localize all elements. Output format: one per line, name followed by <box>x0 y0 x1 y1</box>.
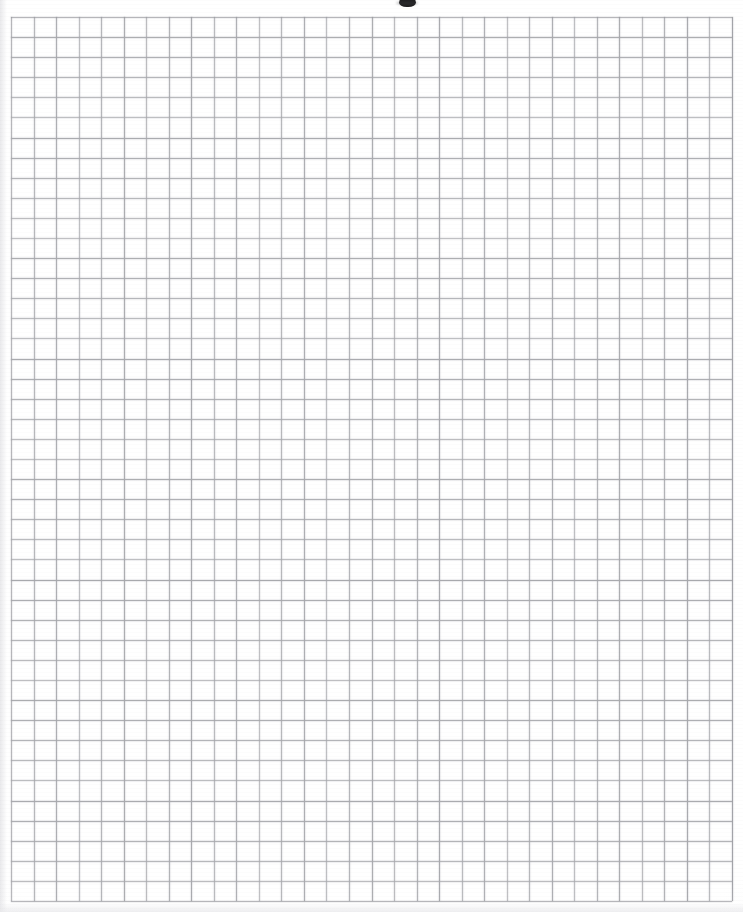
grid-horizontal-line <box>11 459 732 460</box>
grid-horizontal-line <box>11 720 732 721</box>
ink-smudge-artifact <box>399 0 416 7</box>
grid-horizontal-line <box>11 399 732 400</box>
grid-horizontal-line <box>11 559 732 560</box>
grid-horizontal-line <box>11 700 732 701</box>
grid-horizontal-line <box>11 539 732 540</box>
grid-horizontal-line <box>11 801 732 802</box>
grid-horizontal-line <box>11 821 732 822</box>
grid-horizontal-line <box>11 37 732 38</box>
grid-horizontal-line <box>11 77 732 78</box>
grid-horizontal-line <box>11 519 732 520</box>
left-page-edge-shadow <box>0 0 7 912</box>
grid-horizontal-line <box>11 138 732 139</box>
grid-horizontal-line <box>11 338 732 339</box>
grid-horizontal-line <box>11 97 732 98</box>
grid-horizontal-line <box>11 439 732 440</box>
grid-horizontal-line <box>11 379 732 380</box>
grid-horizontal-line <box>11 620 732 621</box>
grid-horizontal-line <box>11 419 732 420</box>
grid-vertical-line <box>732 17 733 901</box>
grid-horizontal-line <box>11 660 732 661</box>
grid-line-layer <box>11 17 732 901</box>
grid-horizontal-line <box>11 760 732 761</box>
grid-horizontal-line <box>11 218 732 219</box>
grid-horizontal-line <box>11 158 732 159</box>
grid-horizontal-line <box>11 198 732 199</box>
grid-horizontal-line <box>11 680 732 681</box>
grid-horizontal-line <box>11 861 732 862</box>
grid-horizontal-line <box>11 258 732 259</box>
bottom-page-edge-shadow <box>0 903 743 912</box>
page-canvas <box>0 0 743 912</box>
grid-horizontal-line <box>11 740 732 741</box>
grid-horizontal-line <box>11 580 732 581</box>
grid-horizontal-line <box>11 841 732 842</box>
grid-horizontal-line <box>11 278 732 279</box>
grid-horizontal-line <box>11 359 732 360</box>
grid-horizontal-line <box>11 901 732 902</box>
grid-horizontal-line <box>11 640 732 641</box>
grid-horizontal-line <box>11 178 732 179</box>
grid-horizontal-line <box>11 298 732 299</box>
grid-horizontal-line <box>11 600 732 601</box>
grid-horizontal-line <box>11 57 732 58</box>
grid-horizontal-line <box>11 479 732 480</box>
grid-horizontal-line <box>11 318 732 319</box>
grid-horizontal-line <box>11 780 732 781</box>
grid-horizontal-line <box>11 499 732 500</box>
grid-horizontal-line <box>11 238 732 239</box>
grid-horizontal-line <box>11 881 732 882</box>
grid-horizontal-line <box>11 17 732 18</box>
grid-horizontal-line <box>11 117 732 118</box>
graph-paper-grid <box>11 17 732 901</box>
